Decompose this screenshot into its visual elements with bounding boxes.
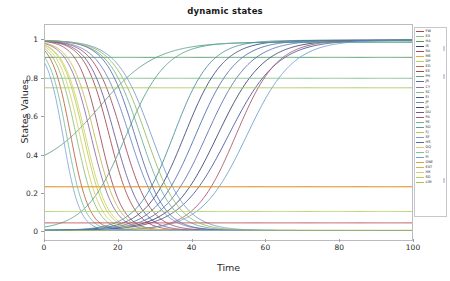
- x-tick-mark: [413, 239, 414, 242]
- x-tick-label: 40: [187, 243, 197, 252]
- legend-color-swatch: [416, 142, 424, 143]
- legend-color-swatch: [416, 66, 424, 67]
- y-tick-label: 1: [18, 35, 38, 44]
- legend-color-swatch: [416, 147, 424, 148]
- series-line: [45, 42, 412, 155]
- x-tick-mark: [44, 239, 45, 242]
- legend-color-swatch: [416, 152, 424, 153]
- legend-color-swatch: [416, 132, 424, 133]
- legend-color-swatch: [416, 56, 424, 57]
- y-tick-label: 0.2: [18, 188, 38, 197]
- x-tick-label: 0: [42, 243, 47, 252]
- x-axis-label: Time: [44, 262, 413, 273]
- plot-curves: [45, 25, 412, 240]
- legend-gutter-mark-3: [443, 178, 445, 183]
- y-tick-mark: [41, 116, 44, 117]
- series-line: [45, 49, 412, 231]
- legend-color-swatch: [416, 117, 424, 118]
- legend-color-swatch: [416, 41, 424, 42]
- legend-color-swatch: [416, 61, 424, 62]
- legend-color-swatch: [416, 31, 424, 32]
- legend-color-swatch: [416, 122, 424, 123]
- legend-color-swatch: [416, 172, 424, 173]
- legend-color-swatch: [416, 76, 424, 77]
- legend-color-swatch: [416, 92, 424, 93]
- y-tick-label: 0: [18, 227, 38, 236]
- legend-color-swatch: [416, 97, 424, 98]
- y-tick-label: 0.6: [18, 112, 38, 121]
- chart-title: dynamic states: [0, 6, 450, 16]
- chart-figure: dynamic states States Values Time FWEXHA…: [0, 0, 450, 281]
- x-tick-mark: [339, 239, 340, 242]
- legend-color-swatch: [416, 102, 424, 103]
- legend-color-swatch: [416, 36, 424, 37]
- y-tick-label: 0.8: [18, 73, 38, 82]
- y-tick-mark: [41, 39, 44, 40]
- legend-color-swatch: [416, 137, 424, 138]
- series-line: [45, 58, 412, 231]
- y-tick-mark: [41, 231, 44, 232]
- y-tick-mark: [41, 155, 44, 156]
- legend-item-label: LIM: [426, 180, 432, 185]
- legend-color-swatch: [416, 51, 424, 52]
- legend-gutter-mark-1: [443, 46, 445, 51]
- x-tick-label: 60: [261, 243, 271, 252]
- legend-color-swatch: [416, 177, 424, 178]
- legend-color-swatch: [416, 112, 424, 113]
- x-tick-mark: [265, 239, 266, 242]
- y-tick-mark: [41, 78, 44, 79]
- legend-color-swatch: [416, 46, 424, 47]
- series-line: [45, 47, 412, 231]
- legend-color-swatch: [416, 127, 424, 128]
- chart-legend[interactable]: FWEXHAISRAMEDPEDEEPHJRCYSCEIJPJADUPAPESO…: [414, 27, 447, 217]
- x-tick-mark: [118, 239, 119, 242]
- legend-color-swatch: [416, 81, 424, 82]
- x-tick-mark: [192, 239, 193, 242]
- x-tick-label: 80: [334, 243, 344, 252]
- x-tick-label: 100: [406, 243, 420, 252]
- legend-gutter-mark-2: [443, 74, 445, 79]
- y-tick-mark: [41, 193, 44, 194]
- x-tick-label: 20: [113, 243, 123, 252]
- legend-item[interactable]: LIM: [415, 180, 446, 185]
- legend-color-swatch: [416, 162, 424, 163]
- legend-color-swatch: [416, 107, 424, 108]
- y-tick-label: 0.4: [18, 150, 38, 159]
- legend-color-swatch: [416, 182, 424, 183]
- plot-area: [44, 24, 413, 241]
- legend-color-swatch: [416, 167, 424, 168]
- legend-color-swatch: [416, 71, 424, 72]
- legend-color-swatch: [416, 87, 424, 88]
- legend-color-swatch: [416, 157, 424, 158]
